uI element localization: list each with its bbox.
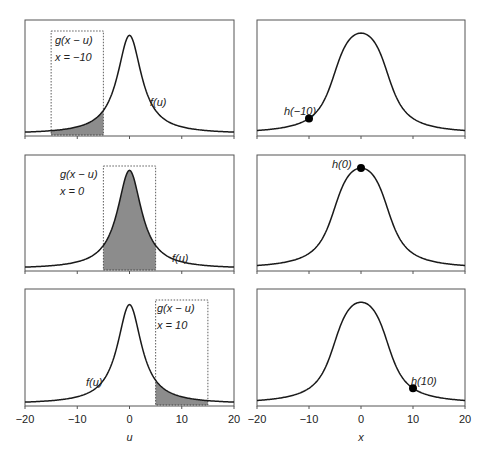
tick-label: −10 (68, 413, 87, 425)
panel-right-bottom: h(10) (257, 289, 465, 409)
overlap-area (103, 170, 155, 270)
x-value-label: x = 10 (156, 319, 188, 331)
f-label: f(u) (172, 252, 189, 264)
tick-label: 10 (407, 413, 419, 425)
plot-frame (25, 289, 234, 406)
f-label: f(u) (150, 96, 167, 108)
tick-label: −20 (16, 413, 35, 425)
h-point-label: h(0) (332, 158, 352, 170)
axis-label: u (126, 431, 132, 443)
f-label: f(u) (86, 376, 103, 388)
tick-label: 0 (126, 413, 132, 425)
x-value-label: x = 0 (59, 185, 85, 197)
h-point-label: h(10) (411, 375, 437, 387)
x-value-label: x = −10 (54, 51, 93, 63)
f-curve (25, 35, 234, 132)
tick-label: 20 (228, 413, 240, 425)
tick-label: 20 (459, 413, 471, 425)
x-axis-left: −20−1001020u (16, 413, 240, 443)
convolution-figure: g(x − u)x = −10f(u)g(x − u)x = 0f(u)g(x … (0, 0, 490, 458)
g-label: g(x − u) (60, 168, 98, 180)
overlap-area (156, 380, 208, 405)
tick-label: 0 (358, 413, 364, 425)
tick-label: 10 (176, 413, 188, 425)
h-curve (257, 168, 465, 265)
x-axis-right: −20−1001020x (248, 413, 471, 443)
g-label: g(x − u) (55, 34, 93, 46)
panel-left-top: g(x − u)x = −10f(u) (25, 20, 234, 139)
plot-frame (257, 155, 465, 271)
tick-label: −20 (248, 413, 267, 425)
overlap-area (51, 110, 103, 135)
panel-right-top: h(−10) (257, 20, 465, 139)
g-label: g(x − u) (157, 302, 195, 314)
f-curve (25, 305, 234, 403)
panel-left-bottom: g(x − u)x = 10f(u) (25, 289, 234, 409)
h-point-label: h(−10) (284, 105, 316, 117)
panel-right-middle: h(0) (257, 155, 465, 274)
panel-left-middle: g(x − u)x = 0f(u) (25, 155, 234, 274)
axis-label: x (357, 431, 364, 443)
tick-label: −10 (300, 413, 319, 425)
plot-frame (257, 20, 465, 136)
plot-frame (257, 289, 465, 406)
h-point-marker (357, 164, 365, 172)
